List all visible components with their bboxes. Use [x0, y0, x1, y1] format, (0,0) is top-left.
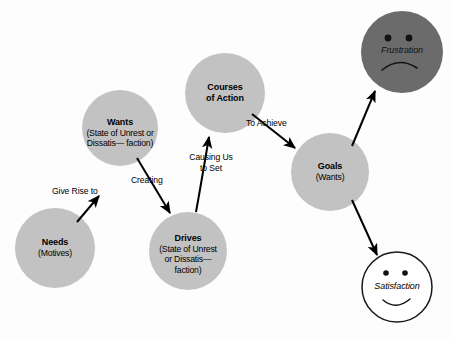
satisfaction-face-circle [362, 252, 432, 322]
arrow-goals-to-satisfaction [352, 200, 377, 255]
arrow-needs-to-wants [77, 196, 99, 222]
node-circle-wants [82, 90, 158, 166]
frustration-face-circle [361, 11, 443, 93]
diagram-canvas [0, 0, 453, 338]
arrow-goals-to-frustration [352, 91, 375, 146]
arrow-courses-to-goals [252, 114, 295, 148]
node-circle-goals [291, 133, 369, 211]
node-circle-needs [15, 208, 95, 288]
satisfaction-right-eye-icon [402, 270, 408, 276]
frustration-right-eye-icon [406, 35, 413, 42]
frustration-left-eye-icon [385, 35, 392, 42]
arrow-drives-to-courses [196, 137, 209, 212]
node-circle-drives [149, 212, 227, 290]
face-frustration [361, 11, 443, 93]
arrow-wants-to-drives [137, 158, 170, 213]
motivation-process-diagram: Needs (Motives) Wants (State of Unrest o… [0, 0, 453, 338]
node-circle-courses-of-action [185, 53, 265, 133]
satisfaction-left-eye-icon [383, 270, 389, 276]
face-satisfaction [362, 252, 432, 322]
